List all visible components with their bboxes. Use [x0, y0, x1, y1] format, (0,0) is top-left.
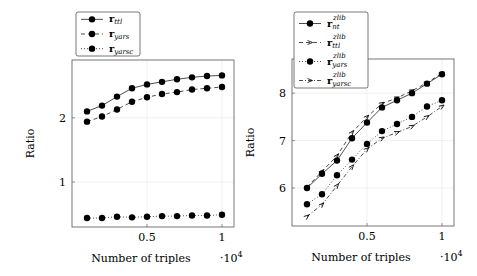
circle-marker-icon [99, 113, 105, 119]
y-axis-label: Ratio [244, 127, 257, 157]
series-line [307, 73, 442, 187]
grid [72, 60, 234, 227]
y-axis-label: Ratio [24, 128, 37, 158]
plot-area [72, 60, 234, 227]
circle-marker-icon [364, 119, 370, 125]
circle-marker-icon [144, 81, 150, 87]
series-r-nt-zlib [304, 71, 445, 191]
circle-marker-icon [99, 102, 105, 108]
x-tick-label: 0.5 [138, 231, 156, 244]
x-axis-label: Number of triples [91, 252, 191, 265]
circle-marker-icon [349, 156, 355, 162]
series-line [307, 106, 442, 216]
circle-marker-icon [174, 213, 180, 219]
circle-marker-icon [204, 212, 210, 218]
series-line [307, 74, 442, 188]
circle-marker-icon [334, 172, 340, 178]
circle-marker-icon [364, 141, 370, 147]
circle-marker-icon [84, 108, 90, 114]
chart-left: 0.5112Number of triples·104Ratiorttlryar… [24, 12, 243, 265]
circle-marker-icon [84, 118, 90, 124]
circle-marker-icon [99, 215, 105, 221]
y-tick-label: 1 [59, 176, 66, 189]
y-tick-label: 8 [279, 87, 286, 100]
circle-marker-icon [424, 103, 430, 109]
circle-marker-icon [204, 73, 210, 79]
circle-marker-icon [114, 93, 120, 99]
circle-marker-icon [204, 85, 210, 91]
series-r-ttl [84, 72, 225, 114]
chart-right: 0.51678Number of triples·104Ratiorntzlib… [244, 12, 463, 264]
circle-marker-icon [307, 20, 313, 26]
circle-marker-icon [129, 99, 135, 105]
y-tick-label: 6 [279, 182, 286, 195]
x-tick-label: 0.5 [358, 230, 376, 243]
circle-marker-icon [304, 201, 310, 207]
circle-marker-icon [409, 90, 415, 96]
series-r-yars-zlib [304, 97, 445, 207]
series-line [87, 75, 222, 111]
x-multiplier: ·104 [440, 249, 463, 264]
circle-marker-icon [394, 121, 400, 127]
circle-marker-icon [89, 45, 95, 51]
y-tick-label: 2 [59, 112, 66, 125]
circle-marker-icon [189, 74, 195, 80]
circle-marker-icon [174, 89, 180, 95]
circle-marker-icon [439, 97, 445, 103]
circle-marker-icon [219, 84, 225, 90]
circle-marker-icon [409, 114, 415, 120]
circle-marker-icon [84, 215, 90, 221]
series-r-yarsc-zlib [304, 103, 445, 219]
figure: 0.5112Number of triples·104Ratiorttlryar… [0, 0, 477, 276]
series-line [87, 215, 222, 218]
x-tick-label: 1 [219, 231, 226, 244]
circle-marker-icon [174, 76, 180, 82]
circle-marker-icon [189, 212, 195, 218]
series-line [87, 87, 222, 122]
y-tick-label: 7 [279, 135, 286, 148]
series-line [307, 100, 442, 204]
circle-marker-icon [129, 214, 135, 220]
x-tick-label: 1 [439, 230, 446, 243]
circle-marker-icon [114, 106, 120, 112]
circle-marker-icon [189, 86, 195, 92]
circle-marker-icon [219, 72, 225, 78]
circle-marker-icon [307, 58, 313, 64]
circle-marker-icon [144, 94, 150, 100]
x-multiplier: ·104 [220, 250, 243, 265]
series-r-yars [84, 84, 225, 125]
circle-marker-icon [379, 128, 385, 134]
circle-marker-icon [89, 31, 95, 37]
circle-marker-icon [219, 212, 225, 218]
circle-marker-icon [89, 16, 95, 22]
arrow-marker-icon [394, 130, 400, 136]
circle-marker-icon [144, 214, 150, 220]
legend: rttlryarsryarsc [76, 12, 140, 56]
circle-marker-icon [159, 79, 165, 85]
circle-marker-icon [319, 191, 325, 197]
x-axis-label: Number of triples [311, 251, 411, 264]
series-r-yarsc [84, 212, 225, 222]
circle-marker-icon [129, 85, 135, 91]
circle-marker-icon [159, 213, 165, 219]
circle-marker-icon [114, 214, 120, 220]
legend: rntzlibrttlzlibryarszlibryarsczlib [294, 12, 368, 88]
circle-marker-icon [159, 91, 165, 97]
